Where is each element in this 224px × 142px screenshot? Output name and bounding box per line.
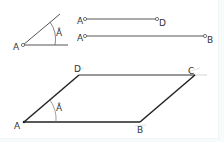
angle-ray-upper (23, 14, 60, 45)
vertex-point (21, 43, 24, 46)
label-c: C (188, 66, 194, 76)
reference-angle: A Â (13, 14, 68, 52)
segment-ad-end-label: D (159, 18, 166, 28)
segment-ad-start-label: A (77, 16, 84, 26)
side-ad (24, 75, 79, 122)
segment-ad: A D (77, 16, 166, 28)
side-bc (140, 75, 195, 122)
parallelogram: A B C D Â (14, 64, 207, 135)
label-a: A (14, 121, 21, 131)
segment-ab-end-label: B (207, 35, 213, 45)
segment-ab-start-label: A (77, 33, 84, 43)
label-b: B (137, 125, 143, 135)
geometry-diagram: A Â A D A B A B C D Â (0, 0, 224, 142)
point-a (23, 121, 26, 124)
angle-label: Â (56, 27, 63, 38)
segment-ad-start-point (83, 17, 86, 20)
parallelogram-angle-label: Â (56, 102, 63, 113)
angle-arc (50, 22, 56, 45)
segment-ab: A B (77, 33, 213, 45)
vertex-label-a: A (13, 42, 20, 52)
segment-ab-start-point (83, 34, 86, 37)
label-d: D (74, 64, 81, 74)
